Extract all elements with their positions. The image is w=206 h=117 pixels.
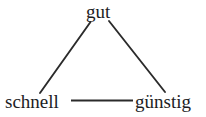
edge-gut-guenstig [109,21,165,92]
edge-gut-schnell [40,22,91,93]
node-label-schnell: schnell [5,92,59,111]
triangle-diagram: gut schnell günstig [0,0,206,117]
node-label-guenstig: günstig [135,92,191,111]
node-label-gut: gut [86,2,110,21]
